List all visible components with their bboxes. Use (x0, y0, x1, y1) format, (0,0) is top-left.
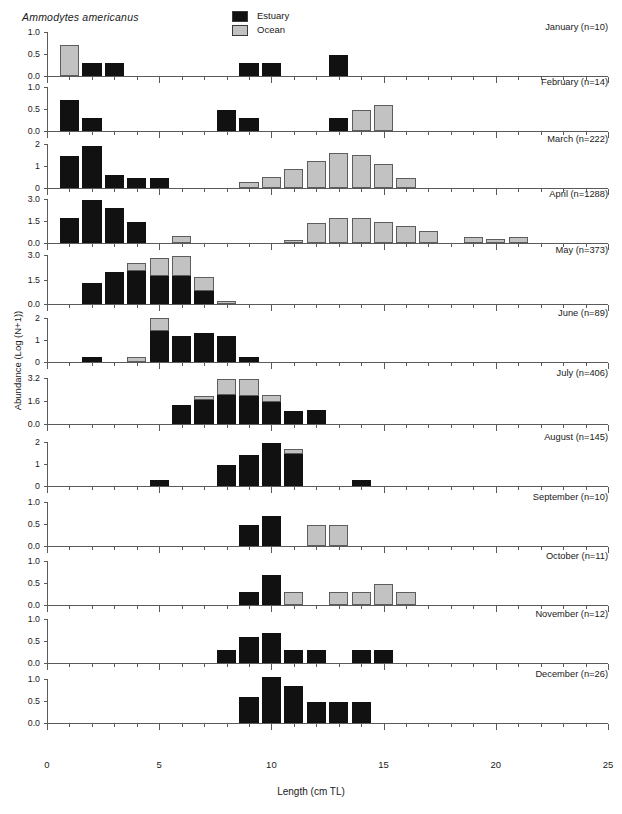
bar-ocean (127, 357, 146, 363)
figure-panel-chart: Ammodytes americanus Estuary Ocean Abund… (0, 0, 622, 814)
y-axis-line (47, 32, 48, 77)
x-tick-minor (339, 363, 340, 366)
x-tick-major (159, 244, 160, 250)
x-tick-major (608, 132, 609, 138)
x-tick-major (47, 189, 48, 195)
x-tick-minor (137, 664, 138, 667)
bar-ocean (60, 45, 79, 76)
panel-title-february: February (n=14) (541, 77, 608, 87)
y-tick (44, 619, 47, 620)
x-tick-major (47, 244, 48, 250)
y-tick (44, 109, 47, 110)
x-tick-minor (473, 189, 474, 192)
x-tick-minor (114, 77, 115, 80)
x-tick-major (271, 606, 272, 612)
y-tick (44, 54, 47, 55)
x-tick-minor (182, 132, 183, 135)
y-tick (44, 318, 47, 319)
x-tick-major (496, 425, 497, 431)
x-tick-major (159, 487, 160, 493)
x-tick-minor (541, 305, 542, 308)
x-tick-minor (227, 547, 228, 550)
x-tick-minor (92, 77, 93, 80)
x-axis-line (47, 76, 608, 77)
y-tick-label: 1.0 (10, 614, 40, 624)
x-tick-minor (294, 606, 295, 609)
y-tick-label: 2 (10, 139, 40, 149)
x-tick-minor (92, 363, 93, 366)
x-tick-minor (69, 363, 70, 366)
x-tick-minor (69, 305, 70, 308)
x-tick-major (47, 425, 48, 431)
x-tick-minor (451, 305, 452, 308)
x-tick-label: 0 (27, 759, 67, 770)
x-tick-minor (428, 189, 429, 192)
x-tick-minor (361, 363, 362, 366)
x-tick-minor (249, 425, 250, 428)
x-tick-minor (114, 664, 115, 667)
x-tick-major (47, 77, 48, 83)
x-tick-minor (361, 132, 362, 135)
x-tick-minor (316, 363, 317, 366)
panel-title-november: November (n=12) (535, 609, 608, 619)
x-tick-label: 15 (364, 759, 404, 770)
x-tick-minor (249, 132, 250, 135)
x-tick-minor (182, 547, 183, 550)
x-tick-major (608, 664, 609, 670)
bar-estuary (217, 395, 236, 424)
panel-title-july: July (n=406) (557, 368, 608, 378)
x-tick-major (159, 132, 160, 138)
x-tick-minor (204, 77, 205, 80)
x-tick-minor (294, 305, 295, 308)
chart-legend: Estuary Ocean (232, 10, 289, 38)
x-tick-minor (428, 77, 429, 80)
x-tick-minor (339, 132, 340, 135)
x-tick-minor (294, 724, 295, 727)
bar-estuary (284, 454, 303, 486)
bar-estuary (284, 650, 303, 663)
x-axis-line (47, 131, 608, 132)
x-tick-minor (92, 132, 93, 135)
bar-estuary (172, 276, 191, 304)
x-tick-minor (137, 244, 138, 247)
x-tick-minor (451, 77, 452, 80)
x-tick-major (159, 189, 160, 195)
x-axis-line (47, 362, 608, 363)
x-tick-minor (586, 487, 587, 490)
x-tick-major (159, 77, 160, 83)
panel-title-may: May (n=373) (556, 245, 608, 255)
x-tick-minor (473, 487, 474, 490)
x-tick-minor (518, 724, 519, 727)
x-axis-label: Length (cm TL) (0, 786, 622, 797)
x-tick-minor (316, 724, 317, 727)
x-tick-minor (406, 305, 407, 308)
bar-ocean (374, 584, 393, 605)
bar-estuary (172, 405, 191, 424)
bar-estuary (217, 650, 236, 663)
bar-ocean (374, 105, 393, 131)
bar-estuary (262, 516, 281, 546)
bar-estuary (239, 697, 258, 723)
x-tick-minor (518, 305, 519, 308)
bar-estuary (60, 100, 79, 131)
bar-ocean (284, 449, 303, 454)
y-tick-label: 1.5 (10, 275, 40, 285)
x-tick-minor (69, 189, 70, 192)
x-tick-minor (137, 724, 138, 727)
bar-estuary (172, 336, 191, 362)
x-tick-minor (249, 724, 250, 727)
x-tick-minor (114, 189, 115, 192)
x-tick-minor (473, 77, 474, 80)
bar-estuary (307, 650, 326, 663)
x-tick-minor (361, 487, 362, 490)
x-tick-minor (428, 547, 429, 550)
x-tick-minor (518, 244, 519, 247)
y-tick-label: 1.0 (10, 27, 40, 37)
x-tick-major (384, 77, 385, 83)
bar-ocean (352, 592, 371, 605)
x-tick-minor (227, 244, 228, 247)
x-tick-minor (473, 132, 474, 135)
x-tick-minor (204, 724, 205, 727)
x-tick-minor (316, 77, 317, 80)
x-tick-minor (69, 425, 70, 428)
